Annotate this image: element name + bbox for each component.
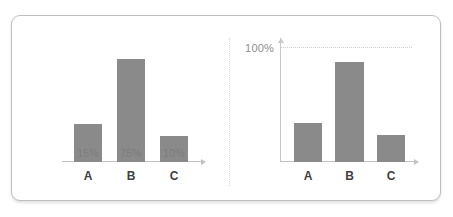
bar-label-b-right: B	[345, 169, 354, 183]
bar-b-right[interactable]	[335, 62, 364, 162]
bar-value-a-left: 15%	[77, 147, 99, 159]
y-axis-arrow-right	[278, 38, 284, 43]
y-axis-right	[280, 38, 281, 162]
reference-line-label: 100%	[245, 42, 274, 54]
chart-card: 15% A 75% B 10% C	[11, 15, 441, 201]
x-axis-arrow-right	[414, 159, 419, 165]
chart-panel-right: 100% A B C	[230, 16, 442, 200]
bar-label-a-right: A	[304, 169, 313, 183]
bar-a-right[interactable]	[294, 123, 322, 162]
bar-label-c-left: C	[170, 169, 179, 183]
bar-label-a-left: A	[84, 169, 93, 183]
plot-area-left: 15% A 75% B 10% C	[62, 46, 207, 191]
screenshot-root: 15% A 75% B 10% C	[0, 0, 453, 217]
bar-label-b-left: B	[127, 169, 136, 183]
plot-area-right: 100% A B C	[280, 34, 430, 191]
chart-panel-left: 15% A 75% B 10% C	[12, 16, 229, 200]
x-axis-arrow-left	[201, 159, 206, 165]
reference-line-100: 100%	[281, 47, 412, 48]
bar-value-b-left: 75%	[120, 147, 142, 159]
bar-label-c-right: C	[387, 169, 396, 183]
bar-c-right[interactable]	[377, 135, 405, 162]
bar-value-c-left: 10%	[163, 147, 185, 159]
